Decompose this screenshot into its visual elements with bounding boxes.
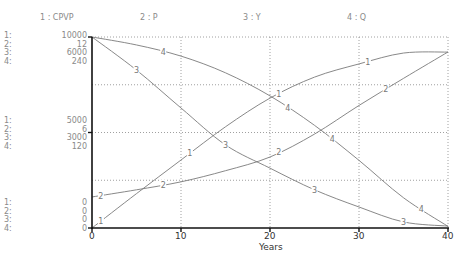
series-marker: 1 [276, 90, 281, 99]
gridlines [92, 37, 448, 228]
series-marker: 2 [383, 85, 388, 94]
series-marker: 3 [401, 218, 406, 227]
series-marker: 3 [134, 66, 139, 75]
series-marker: 2 [98, 192, 103, 201]
x-tick: 30 [353, 231, 364, 241]
series-line-q [92, 37, 448, 226]
axes [88, 37, 449, 232]
series-line-y [92, 37, 448, 226]
x-tick: 0 [89, 231, 95, 241]
series-marker: 1 [98, 217, 103, 226]
x-axis-label: Years [259, 242, 283, 252]
x-tick: 10 [175, 231, 186, 241]
series-marker: 4 [285, 104, 290, 113]
series-marker: 4 [419, 205, 424, 214]
x-tick: 20 [264, 231, 275, 241]
series-marker: 2 [161, 181, 166, 190]
series-marker: 3 [312, 186, 317, 195]
series-marker: 1 [187, 149, 192, 158]
series-marker: 2 [276, 148, 281, 157]
plot-area: 1111222233334444 [0, 0, 470, 261]
series-marker: 4 [330, 135, 335, 144]
series-marker: 3 [223, 141, 228, 150]
series-marker: 4 [161, 48, 166, 57]
series-marker: 1 [365, 58, 370, 67]
x-tick: 40 [442, 231, 453, 241]
